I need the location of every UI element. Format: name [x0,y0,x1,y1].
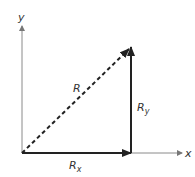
y-axis-label: y [17,11,25,24]
vector-rx-label: Rx [69,159,82,174]
vector-r-resultant [22,49,129,153]
vector-diagram: y x R Ry Rx [0,0,195,177]
vector-ry-label: Ry [137,101,150,116]
x-axis-label: x [184,147,192,160]
vector-r-label: R [73,82,81,95]
